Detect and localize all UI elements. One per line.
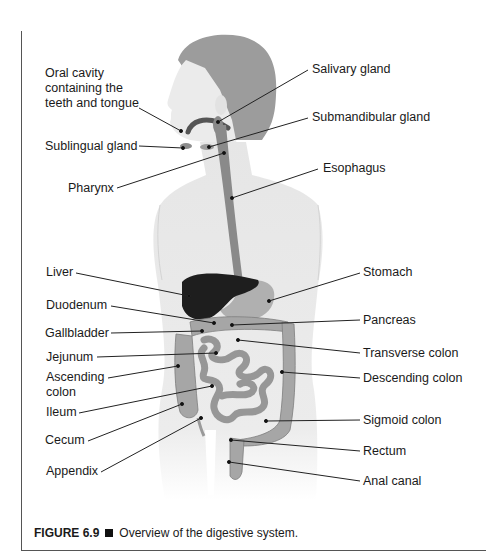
label-jejunum: Jejunum (46, 350, 93, 365)
figure-caption-text: Overview of the digestive system. (119, 526, 298, 540)
label-sigmoid-colon: Sigmoid colon (363, 413, 442, 428)
label-anal-canal: Anal canal (363, 474, 421, 489)
label-sublingual-gland: Sublingual gland (45, 139, 137, 154)
label-ileum: Ileum (46, 405, 77, 420)
label-liver: Liver (46, 265, 73, 280)
label-oral-cavity: Oral cavity containing the teeth and ton… (45, 66, 139, 111)
square-bullet-icon (105, 529, 113, 537)
label-gallbladder: Gallbladder (45, 326, 109, 341)
label-descending-colon: Descending colon (363, 371, 462, 386)
label-stomach: Stomach (363, 265, 412, 280)
label-submandibular-gland: Submandibular gland (312, 110, 430, 125)
label-duodenum: Duodenum (46, 298, 107, 313)
label-transverse-colon: Transverse colon (363, 346, 458, 361)
label-appendix: Appendix (46, 464, 98, 479)
label-ascending-colon: Ascending colon (46, 370, 104, 400)
label-pancreas: Pancreas (363, 313, 416, 328)
label-rectum: Rectum (363, 444, 406, 459)
label-esophagus: Esophagus (323, 161, 386, 176)
figure-caption: FIGURE 6.9Overview of the digestive syst… (34, 526, 298, 540)
label-cecum: Cecum (45, 433, 85, 448)
figure-number: FIGURE 6.9 (34, 526, 99, 540)
label-salivary-gland: Salivary gland (312, 62, 391, 77)
label-pharynx: Pharynx (68, 181, 114, 196)
